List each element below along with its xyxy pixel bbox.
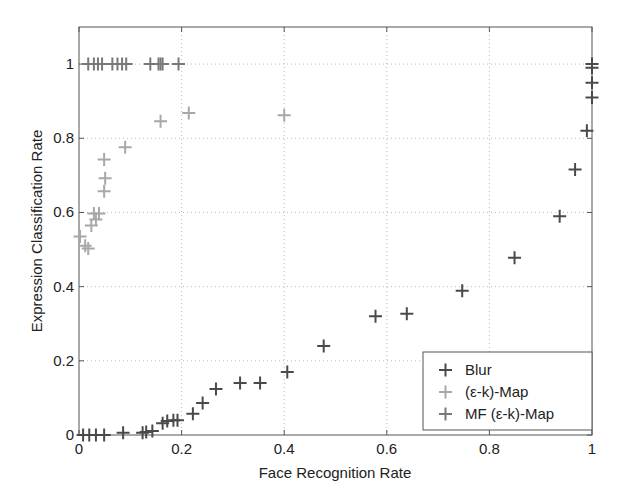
y-tick-label: 0.8 xyxy=(53,129,74,146)
plus-marker-icon xyxy=(182,107,195,120)
plus-marker-icon xyxy=(369,310,382,323)
plus-marker-icon xyxy=(456,284,469,297)
plus-marker-icon xyxy=(98,429,111,442)
plus-marker-icon xyxy=(186,407,199,420)
plus-marker-icon xyxy=(580,124,593,137)
x-tick-label: 1 xyxy=(588,440,596,457)
y-tick-label: 1 xyxy=(66,55,74,72)
x-tick-label: 0.4 xyxy=(274,440,295,457)
plus-marker-icon xyxy=(586,76,599,89)
plus-marker-icon xyxy=(172,58,185,71)
plus-marker-icon xyxy=(234,377,247,390)
legend-label: Blur xyxy=(465,361,492,378)
plus-marker-icon xyxy=(569,163,582,176)
x-tick-label: 0.8 xyxy=(479,440,500,457)
plus-marker-icon xyxy=(508,251,521,264)
legend: Blur (ε-k)-Map MF (ε-k)-Map xyxy=(423,352,592,430)
plus-marker-icon xyxy=(254,377,267,390)
scatter-chart: 00.20.40.60.8100.20.40.60.81 Face Recogn… xyxy=(0,0,620,494)
plus-marker-icon xyxy=(553,210,566,223)
plus-marker-icon xyxy=(278,109,291,122)
plus-marker-icon xyxy=(281,365,294,378)
x-tick-label: 0.2 xyxy=(171,440,192,457)
plus-marker-icon xyxy=(82,242,95,255)
plus-marker-icon xyxy=(196,397,209,410)
plus-marker-icon xyxy=(98,185,111,198)
plus-marker-icon xyxy=(400,307,413,320)
y-tick-label: 0.2 xyxy=(53,352,74,369)
x-tick-label: 0 xyxy=(75,440,83,457)
plus-marker-icon xyxy=(117,426,130,439)
y-tick-label: 0.6 xyxy=(53,203,74,220)
y-tick-label: 0 xyxy=(66,426,74,443)
legend-label: MF (ε-k)-Map xyxy=(465,405,554,422)
legend-label: (ε-k)-Map xyxy=(465,383,528,400)
plus-marker-icon xyxy=(317,339,330,352)
y-axis-label: Expression Classification Rate xyxy=(28,130,45,333)
y-tick-label: 0.4 xyxy=(53,278,74,295)
x-tick-label: 0.6 xyxy=(376,440,397,457)
plus-marker-icon xyxy=(99,172,112,185)
x-axis-label: Face Recognition Rate xyxy=(259,464,412,481)
plus-marker-icon xyxy=(119,141,132,154)
plus-marker-icon xyxy=(586,91,599,104)
plus-marker-icon xyxy=(98,153,111,166)
plus-marker-icon xyxy=(209,383,222,396)
plus-marker-icon xyxy=(154,115,167,128)
